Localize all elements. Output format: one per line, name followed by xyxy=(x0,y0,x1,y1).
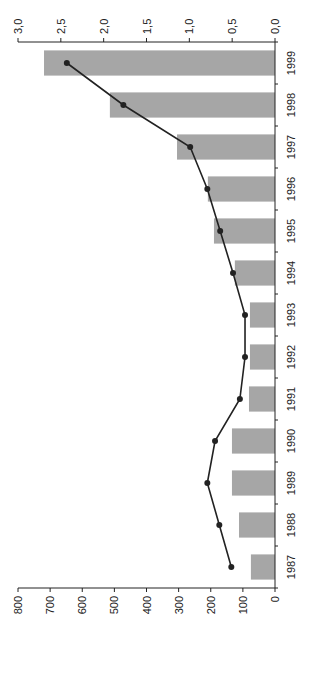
secondary-axis-tick: 1,5 xyxy=(141,19,153,34)
primary-axis-tick: 700 xyxy=(44,596,56,614)
category-label: 1999 xyxy=(285,51,297,75)
secondary-axis-tick: 3,0 xyxy=(12,19,24,34)
category-label: 1993 xyxy=(285,303,297,327)
category-label: 1992 xyxy=(285,345,297,369)
bar-1987 xyxy=(251,554,275,579)
line-point-1992 xyxy=(242,354,248,360)
primary-axis-tick: 100 xyxy=(237,596,249,614)
category-label: 1998 xyxy=(285,93,297,117)
category-label: 1990 xyxy=(285,429,297,453)
line-point-1987 xyxy=(228,564,234,570)
bar-1996 xyxy=(208,176,275,201)
line-point-1995 xyxy=(217,228,223,234)
category-label: 1994 xyxy=(285,261,297,285)
line-point-1999 xyxy=(64,60,70,66)
category-label: 1989 xyxy=(285,471,297,495)
primary-axis-tick: 600 xyxy=(76,596,88,614)
bar-1991 xyxy=(249,386,275,411)
secondary-axis-tick: 2,5 xyxy=(55,19,67,34)
secondary-axis-tick: 0,5 xyxy=(226,19,238,34)
primary-axis-tick: 200 xyxy=(205,596,217,614)
secondary-axis-tick: 1,0 xyxy=(183,19,195,34)
primary-axis-tick: 500 xyxy=(108,596,120,614)
bar-1990 xyxy=(232,428,275,453)
line-point-1990 xyxy=(212,438,218,444)
bar-1998 xyxy=(110,92,275,117)
secondary-axis-tick: 2,0 xyxy=(98,19,110,34)
category-label: 1996 xyxy=(285,177,297,201)
line-point-1997 xyxy=(187,144,193,150)
category-label: 1995 xyxy=(285,219,297,243)
primary-axis-tick: 300 xyxy=(173,596,185,614)
line-point-1988 xyxy=(216,522,222,528)
primary-axis-tick: 0 xyxy=(269,596,281,602)
category-label: 1997 xyxy=(285,135,297,159)
category-label: 1987 xyxy=(285,555,297,579)
primary-axis-tick: 400 xyxy=(141,596,153,614)
category-label: 1991 xyxy=(285,387,297,411)
line-point-1996 xyxy=(204,186,210,192)
secondary-axis-tick: 0,0 xyxy=(269,19,281,34)
bar-1989 xyxy=(232,470,275,495)
category-label: 1988 xyxy=(285,513,297,537)
primary-axis-tick: 800 xyxy=(12,596,24,614)
bar-1994 xyxy=(235,260,275,285)
line-point-1998 xyxy=(120,102,126,108)
bar-series xyxy=(44,50,275,579)
line-point-1994 xyxy=(230,270,236,276)
line-point-1993 xyxy=(242,312,248,318)
bar-1993 xyxy=(250,302,275,327)
bar-1992 xyxy=(250,344,275,369)
bar-1988 xyxy=(239,512,275,537)
line-point-1989 xyxy=(204,480,210,486)
combo-chart: 1987198819891990199119921993199419951996… xyxy=(0,0,312,677)
line-point-1991 xyxy=(237,396,243,402)
